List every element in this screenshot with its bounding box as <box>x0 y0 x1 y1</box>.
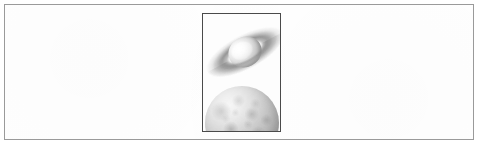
figure-panel <box>4 4 474 140</box>
illustration-frame <box>202 13 281 132</box>
illustration-canvas <box>203 14 280 131</box>
